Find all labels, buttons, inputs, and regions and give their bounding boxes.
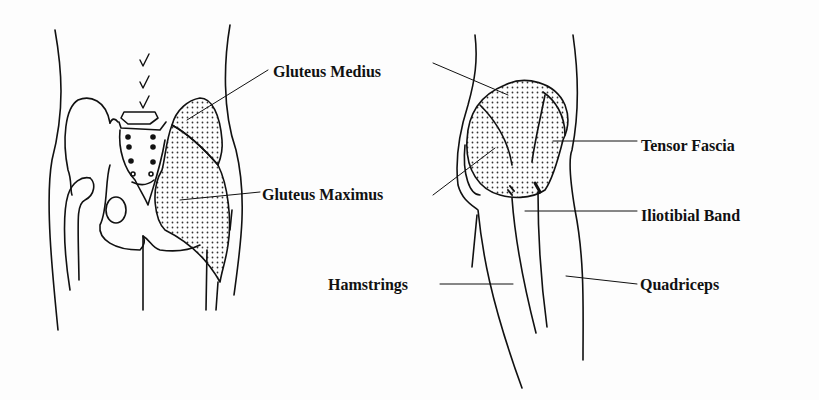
- label-quadriceps: Quadriceps: [640, 276, 719, 294]
- hip-muscle-group: [467, 81, 568, 198]
- left-femur: [65, 178, 94, 290]
- leader-gm-right: [433, 63, 508, 95]
- label-gluteus-maximus: Gluteus Maximus: [262, 186, 383, 204]
- label-iliotibial-band: Iliotibial Band: [641, 207, 740, 225]
- label-tensor-fascia: Tensor Fascia: [641, 137, 735, 155]
- obturator-foramen: [106, 197, 126, 223]
- diagram-drawing: [0, 0, 819, 400]
- leader-quadriceps: [566, 276, 637, 284]
- label-hamstrings: Hamstrings: [328, 276, 408, 294]
- left-ilium: [65, 98, 110, 195]
- diagram-canvas: Gluteus Medius Gluteus Maximus Tensor Fa…: [0, 0, 819, 400]
- label-gluteus-medius: Gluteus Medius: [273, 63, 381, 81]
- spine-vertebra-marks: [140, 54, 149, 108]
